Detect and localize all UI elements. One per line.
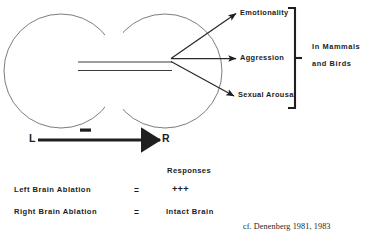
- output-label-aggression: Aggression: [240, 54, 284, 61]
- group-annotation-line1: In Mammals: [312, 43, 360, 50]
- table-row: Right Brain Ablation: [14, 208, 97, 216]
- axis-label-right: R: [162, 133, 170, 144]
- table-header-responses: Responses: [167, 167, 211, 175]
- output-label-sexual-arousal: Sexual Arousal: [238, 91, 296, 98]
- citation: cf. Denenberg 1981, 1983: [243, 223, 331, 231]
- minus-sign-icon: [80, 129, 91, 132]
- axis-label-left: L: [29, 133, 35, 144]
- table-row-result: Intact Brain: [166, 208, 214, 216]
- figure-root: Emotionality Aggression Sexual Arousal I…: [0, 0, 371, 238]
- group-annotation-line2: and Birds: [312, 60, 351, 67]
- output-label-emotionality: Emotionality: [240, 9, 289, 16]
- brain-diagram: [0, 0, 371, 238]
- table-row-operator: =: [134, 186, 139, 194]
- table-row-operator: =: [134, 208, 139, 216]
- table-row: Left Brain Ablation: [14, 186, 91, 194]
- table-row-result: +++: [172, 185, 189, 194]
